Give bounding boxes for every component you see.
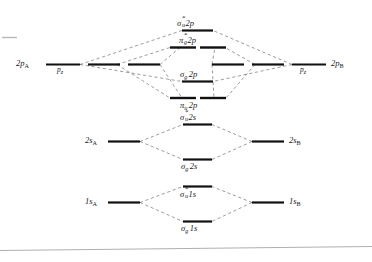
corr-line (226, 65, 255, 99)
atomic-label-2s-B: 2sB (289, 136, 301, 145)
corr-line (140, 203, 183, 222)
mo-label-sigma-u-star-2s: σg * u 2s (180, 113, 196, 122)
mo-label-sigma-u-star-1s: σg * u 1s (180, 190, 196, 199)
corr-line (212, 187, 252, 203)
mo-label-pi-g-star-2p: πg * g 2p (179, 36, 196, 45)
corr-line (117, 65, 170, 99)
corr-line (213, 65, 292, 82)
corr-line (80, 31, 182, 65)
corr-line (225, 48, 255, 65)
mo-energy-level-diagram: 2pA pz 2sA 1sA 2pB pz 2sB 1sB σg * u 2p … (0, 0, 372, 262)
corr-line (140, 187, 183, 203)
atomic-label-2p-A-pz: pz (57, 66, 63, 74)
corr-line (212, 142, 252, 160)
atomic-label-2p-A: 2pA (16, 59, 29, 68)
mo-label-sigma-g-1s: σg1s (181, 224, 197, 233)
corr-line (140, 142, 183, 160)
mo-label-sigma-g-2p: σg2p (180, 70, 197, 79)
mo-label-sigma-u-star-2p: σg * u 2p (177, 19, 194, 28)
atomic-label-1s-B: 1sB (289, 197, 301, 206)
corr-line (212, 48, 215, 65)
atomic-label-1s-A: 1sA (85, 197, 97, 206)
page-edge-rule (0, 247, 372, 251)
atomic-label-2p-B-pz: pz (300, 66, 306, 74)
corr-line (212, 203, 252, 222)
atomic-label-2p-B: 2pB (331, 59, 344, 68)
atomic-label-2s-A: 2sA (85, 136, 97, 145)
energy-level-bars (2, 31, 326, 222)
corr-line (140, 125, 183, 142)
corr-line (80, 65, 182, 82)
mo-label-sigma-g-2s: σg2s (181, 162, 197, 171)
corr-line (117, 48, 170, 65)
corr-line (212, 125, 252, 142)
